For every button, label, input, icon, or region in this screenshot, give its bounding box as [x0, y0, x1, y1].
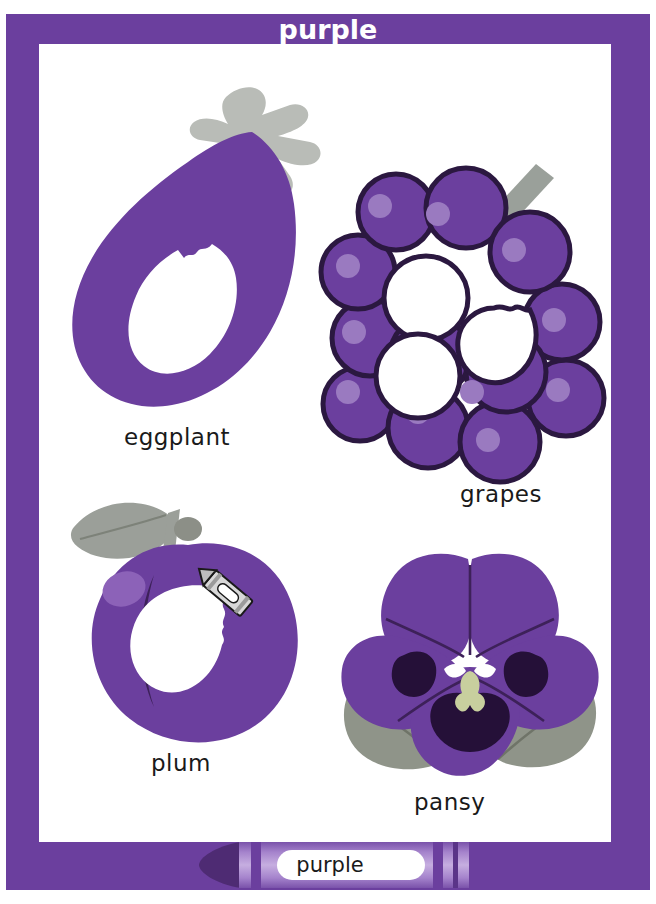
label-grapes: grapes — [460, 481, 542, 507]
page-title: purple — [279, 16, 378, 43]
label-pansy: pansy — [414, 789, 485, 815]
plum-illustration — [62, 495, 322, 750]
coloring-poster: purple — [0, 0, 656, 904]
plum-bud — [174, 517, 202, 541]
grapes-illustration — [318, 160, 618, 490]
pansy-illustration — [340, 545, 600, 795]
crayon-band-end — [453, 842, 458, 888]
crayon-tip — [199, 842, 241, 888]
crayon-band-right — [433, 842, 443, 888]
eggplant-illustration — [60, 80, 360, 425]
label-eggplant: eggplant — [124, 424, 230, 450]
grape-bitten-berry — [458, 307, 536, 383]
poster-title-band: purple — [6, 14, 650, 44]
crayon-label-pill — [277, 850, 425, 880]
crayon-banner: purple — [185, 840, 475, 890]
label-plum: plum — [151, 750, 211, 776]
crayon-icon — [185, 840, 475, 890]
crayon-band-left — [251, 842, 261, 888]
